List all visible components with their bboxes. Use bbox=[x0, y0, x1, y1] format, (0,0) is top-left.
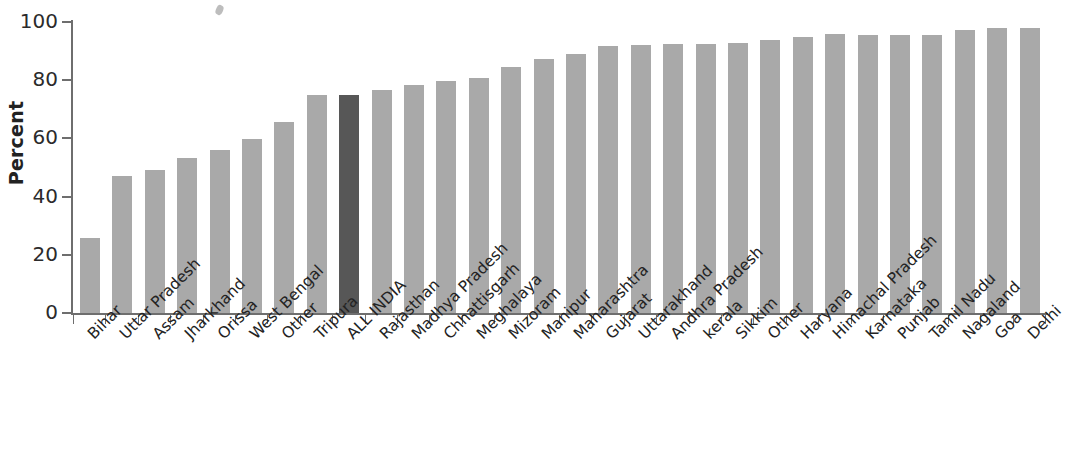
bar bbox=[436, 81, 456, 313]
bar bbox=[987, 28, 1007, 313]
x-axis-labels: BiharUttar PradeshAssamJharkhandOrissaWe… bbox=[0, 326, 1048, 454]
y-tick-40 bbox=[62, 196, 72, 198]
bar bbox=[1020, 28, 1040, 313]
y-tick-20 bbox=[62, 254, 72, 256]
bar bbox=[80, 238, 100, 313]
bar bbox=[404, 85, 424, 313]
bar bbox=[922, 35, 942, 313]
y-tick-label-0: 0 bbox=[0, 300, 58, 324]
y-tick-label-60: 60 bbox=[0, 125, 58, 149]
bar bbox=[825, 34, 845, 313]
y-tick-60 bbox=[62, 137, 72, 139]
bar bbox=[793, 37, 813, 313]
bar bbox=[598, 46, 618, 313]
y-tick-80 bbox=[62, 79, 72, 81]
bar bbox=[955, 30, 975, 313]
bar bbox=[112, 176, 132, 313]
x-tick bbox=[73, 315, 74, 324]
y-tick-label-80: 80 bbox=[0, 67, 58, 91]
bar bbox=[858, 35, 878, 313]
bar bbox=[566, 54, 586, 313]
y-tick-label-20: 20 bbox=[0, 242, 58, 266]
bar bbox=[372, 90, 392, 313]
y-tick-label-40: 40 bbox=[0, 184, 58, 208]
bar bbox=[339, 95, 359, 313]
scan-artifact bbox=[214, 4, 224, 16]
y-tick-0 bbox=[62, 312, 72, 314]
bar bbox=[663, 44, 683, 313]
y-tick-label-100: 100 bbox=[0, 9, 58, 33]
bar bbox=[760, 40, 780, 313]
y-tick-100 bbox=[62, 21, 72, 23]
